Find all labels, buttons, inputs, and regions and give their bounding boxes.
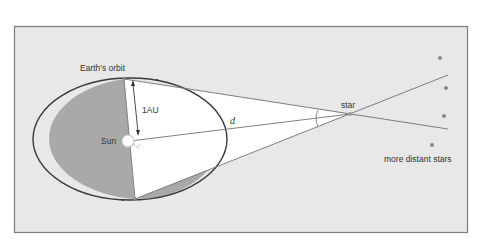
label-earth-orbit: Earth's orbit: [80, 63, 126, 73]
label-sun: Sun: [101, 136, 116, 146]
orbit-tick-bottom: [122, 199, 124, 201]
distant-star-icon: [438, 56, 442, 60]
orbit-tick-top: [156, 79, 158, 81]
star-icon: [348, 112, 352, 116]
label-distant-stars: more distant stars: [384, 154, 452, 164]
earth-bottom-icon: [133, 197, 137, 201]
label-1au: 1AU: [142, 105, 159, 115]
sun-icon: [122, 135, 134, 147]
distant-star-icon: [430, 143, 434, 147]
distant-star-icon: [442, 114, 446, 118]
earth-top-icon: [122, 77, 126, 81]
distant-star-icon: [444, 86, 448, 90]
label-star: star: [341, 100, 355, 110]
parallax-diagram: Earth's orbit 1AU Sun d star more distan…: [0, 0, 481, 248]
